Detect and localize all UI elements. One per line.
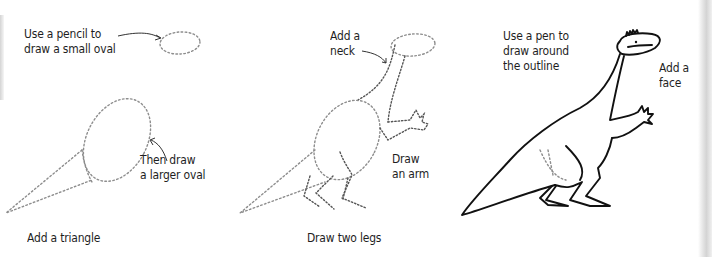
annotation-face: Add a face bbox=[659, 60, 689, 90]
neck-back-line bbox=[388, 56, 405, 122]
dinosaur-back-leg bbox=[555, 138, 612, 206]
dinosaur-back-tail bbox=[462, 54, 620, 215]
arrow-right-icon bbox=[118, 33, 160, 38]
annotation-larger-oval: Then draw a larger oval bbox=[140, 152, 205, 182]
dinosaur-mouth bbox=[628, 45, 652, 47]
dinosaur-eye bbox=[635, 41, 637, 43]
step-1-caption: Add a triangle bbox=[27, 230, 100, 245]
triangle-shape bbox=[6, 150, 92, 213]
arm-shape bbox=[380, 110, 428, 140]
annotation-pen-outline: Use a pen to draw around the outline bbox=[503, 28, 569, 73]
dinosaur-head bbox=[617, 33, 660, 54]
leg-front-outer bbox=[316, 176, 334, 209]
annotation-small-oval: Use a pencil to draw a small oval bbox=[24, 26, 116, 56]
step-2-drawing bbox=[240, 32, 436, 213]
small-oval-shape bbox=[159, 31, 200, 56]
annotation-neck: Add a neck bbox=[330, 28, 360, 58]
leg-back bbox=[340, 152, 366, 208]
arrow-right-down-icon bbox=[362, 51, 386, 63]
annotation-arm: Draw an arm bbox=[392, 151, 429, 181]
neck-front-line bbox=[358, 45, 395, 100]
step-2-caption: Draw two legs bbox=[307, 230, 381, 245]
dinosaur-arm bbox=[610, 56, 653, 138]
tutorial-page: Use a pencil to draw a small oval Then d… bbox=[0, 0, 712, 257]
step-1-drawing bbox=[6, 31, 201, 213]
